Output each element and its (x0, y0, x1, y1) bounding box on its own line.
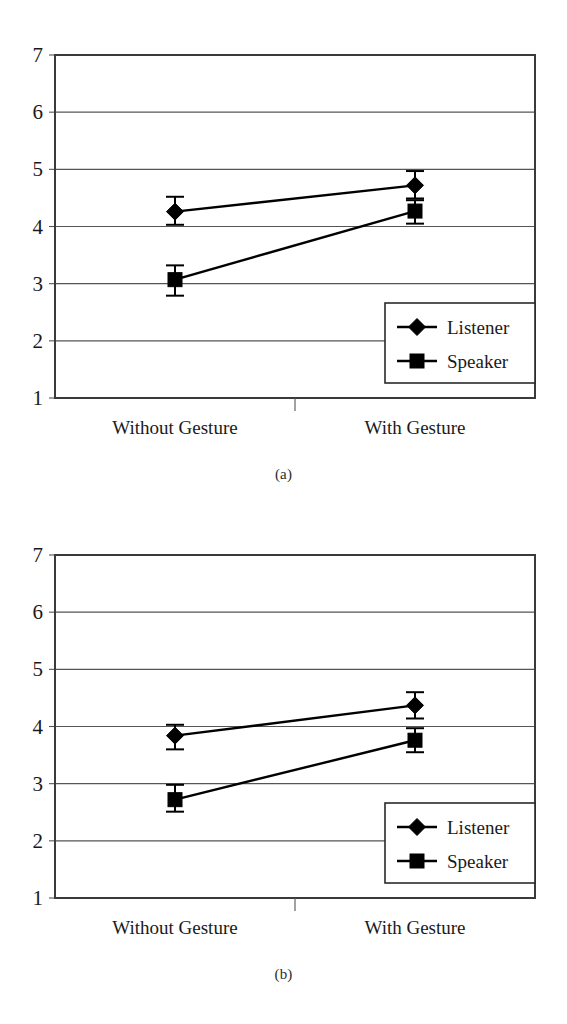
chart-panel-a: 1234567Without GestureWith GestureListen… (0, 0, 567, 440)
y-axis-tick-label: 1 (33, 386, 44, 410)
y-axis-tick-label: 3 (33, 772, 44, 796)
chart-legend: ListenerSpeaker (385, 303, 535, 383)
x-axis-tick-label: With Gesture (364, 417, 465, 438)
x-axis-tick-label: Without Gesture (112, 417, 237, 438)
chart-legend: ListenerSpeaker (385, 803, 535, 883)
legend-label-speaker: Speaker (447, 851, 509, 872)
y-axis-tick-label: 6 (33, 600, 44, 624)
legend-label-speaker: Speaker (447, 351, 509, 372)
data-point-listener (407, 177, 424, 194)
figure-panel-b: 1234567Without GestureWith GestureListen… (0, 500, 567, 1024)
figure-caption-b: (b) (0, 966, 567, 983)
line-chart-a: 1234567Without GestureWith GestureListen… (0, 0, 567, 440)
data-point-speaker (168, 273, 182, 287)
figure-caption-a: (a) (0, 466, 567, 483)
y-axis-tick-label: 4 (33, 215, 44, 239)
data-point-listener (167, 203, 184, 220)
series-line-listener (175, 705, 415, 735)
x-axis-tick-label: With Gesture (364, 917, 465, 938)
y-axis-tick-label: 7 (33, 543, 44, 567)
y-axis-tick-label: 7 (33, 43, 44, 67)
data-point-speaker (408, 733, 422, 747)
y-axis-tick-label: 4 (33, 715, 44, 739)
y-axis-tick-label: 1 (33, 886, 44, 910)
series-line-speaker (175, 211, 415, 280)
legend-label-listener: Listener (447, 817, 510, 838)
figure-panel-a: 1234567Without GestureWith GestureListen… (0, 0, 567, 512)
y-axis-tick-label: 2 (33, 329, 44, 353)
y-axis-tick-label: 6 (33, 100, 44, 124)
y-axis-tick-label: 5 (33, 157, 44, 181)
legend-marker-speaker (410, 854, 424, 868)
series-line-listener (175, 185, 415, 211)
series-line-speaker (175, 740, 415, 799)
line-chart-b: 1234567Without GestureWith GestureListen… (0, 500, 567, 940)
y-axis-tick-label: 5 (33, 657, 44, 681)
legend-marker-speaker (410, 354, 424, 368)
y-axis-tick-label: 3 (33, 272, 44, 296)
x-axis-tick-label: Without Gesture (112, 917, 237, 938)
chart-panel-b: 1234567Without GestureWith GestureListen… (0, 500, 567, 940)
data-point-speaker (168, 793, 182, 807)
data-point-listener (167, 727, 184, 744)
y-axis-tick-label: 2 (33, 829, 44, 853)
legend-label-listener: Listener (447, 317, 510, 338)
data-point-listener (407, 697, 424, 714)
data-point-speaker (408, 204, 422, 218)
